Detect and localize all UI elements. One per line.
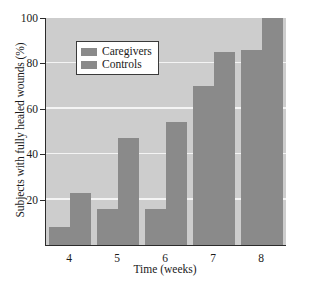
y-tick-label: 40	[27, 148, 39, 160]
x-axis-label: Time (weeks)	[45, 262, 285, 276]
bar	[241, 50, 262, 245]
legend-swatch-icon	[81, 61, 97, 69]
y-tick-label: 100	[21, 12, 38, 24]
y-tick-label: 20	[27, 194, 39, 206]
y-tick-label: 80	[27, 57, 39, 69]
bar	[145, 209, 166, 245]
bar	[166, 122, 187, 245]
legend-label: Controls	[102, 58, 142, 71]
bar	[70, 193, 91, 245]
bar	[214, 52, 235, 245]
bar-chart-figure: Subjects with fully healed wounds (%) 20…	[0, 0, 310, 281]
bar	[262, 18, 283, 245]
y-tick-label: 60	[27, 103, 39, 115]
legend-item: Caregivers	[81, 45, 152, 58]
y-axis-ticks: 20406080100	[0, 0, 44, 281]
bar	[193, 86, 214, 245]
legend-label: Caregivers	[102, 45, 152, 58]
legend-item: Controls	[81, 58, 152, 71]
chart-legend: CaregiversControls	[76, 41, 159, 75]
bar	[49, 227, 70, 245]
bar	[118, 138, 139, 245]
legend-swatch-icon	[81, 48, 97, 56]
bar	[97, 209, 118, 245]
